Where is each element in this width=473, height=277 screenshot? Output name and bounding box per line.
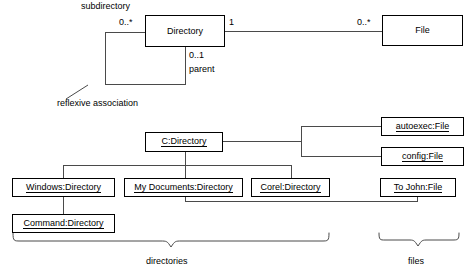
object-name-config-file: config:File (402, 152, 443, 162)
reflexive-left-segment (105, 32, 106, 85)
object-name-c-directory: C:Directory (161, 137, 206, 147)
class-box-directory[interactable]: Directory (145, 15, 225, 47)
assoc-line-directory-file (225, 31, 382, 32)
autoexec-link-line (301, 126, 381, 127)
reflexive-top-segment (105, 32, 146, 33)
object-box-corel-directory[interactable]: Corel:Directory (251, 178, 330, 197)
directory-tree-bar (63, 165, 292, 166)
object-name-windows-directory: Windows:Directory (26, 183, 101, 193)
c-directory-to-files-line (222, 141, 302, 142)
windows-to-command-line (63, 196, 64, 214)
class-name-file: File (415, 26, 430, 35)
class-box-file[interactable]: File (382, 15, 463, 46)
object-box-windows-directory[interactable]: Windows:Directory (12, 178, 115, 197)
annotation-reflexive-association: reflexive association (57, 99, 138, 108)
multiplicity-directory-to-file: 1 (229, 18, 234, 27)
role-label-subdirectory: subdirectory (81, 2, 130, 11)
mydocs-to-tojohn-horizontal (185, 201, 418, 202)
object-name-command-directory: Command:Directory (23, 219, 103, 229)
multiplicity-parent: 0..1 (189, 51, 204, 60)
corel-drop (291, 165, 292, 178)
object-box-config-file[interactable]: config:File (381, 147, 464, 166)
group-label-directories: directories (146, 256, 188, 266)
group-label-files: files (408, 256, 424, 266)
config-link-line (301, 156, 381, 157)
multiplicity-file-end: 0..* (357, 18, 371, 27)
multiplicity-subdirectory: 0..* (119, 18, 133, 27)
object-name-to-john-file: To John:File (394, 183, 443, 193)
uml-diagram-canvas: Directory File subdirectory 0..* 1 0..* … (0, 0, 473, 277)
object-name-autoexec-file: autoexec:File (396, 122, 450, 132)
object-box-autoexec-file[interactable]: autoexec:File (381, 117, 464, 136)
object-name-my-documents-directory: My Documents:Directory (134, 183, 233, 193)
object-box-my-documents-directory[interactable]: My Documents:Directory (124, 178, 243, 197)
files-junction-vertical (301, 126, 302, 157)
object-box-command-directory[interactable]: Command:Directory (12, 214, 115, 233)
reflexive-right-segment (185, 47, 186, 85)
role-label-parent: parent (189, 65, 215, 74)
class-name-directory: Directory (167, 27, 203, 36)
object-box-c-directory[interactable]: C:Directory (145, 132, 223, 152)
reflexive-bottom-segment (105, 84, 186, 85)
windows-drop (63, 165, 64, 178)
object-name-corel-directory: Corel:Directory (260, 183, 320, 193)
object-box-to-john-file[interactable]: To John:File (380, 178, 456, 197)
